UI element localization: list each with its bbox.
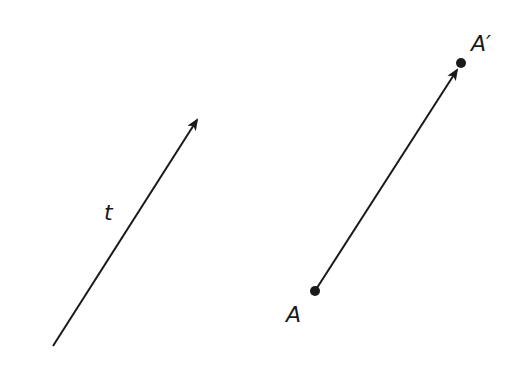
point-a-dot: [310, 286, 320, 296]
translation-line: [315, 70, 457, 291]
point-a-prime-label: A′: [469, 31, 491, 56]
vector-t-line: [53, 120, 197, 346]
vector-t: t: [53, 120, 197, 346]
translation-arrow: A A′: [284, 31, 491, 327]
diagram-canvas: t A A′: [0, 0, 523, 366]
point-a-prime-dot: [456, 58, 466, 68]
diagram-svg: t A A′: [0, 0, 523, 366]
vector-t-label: t: [104, 200, 114, 225]
point-a-label: A: [284, 302, 301, 327]
